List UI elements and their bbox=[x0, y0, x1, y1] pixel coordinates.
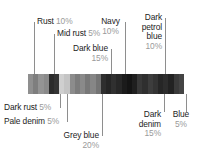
callout-navy: Navy 10% bbox=[98, 17, 123, 36]
callout-pale-denim-pct: 5% bbox=[47, 116, 59, 126]
callout-dark-denim-pct: 15% bbox=[130, 129, 161, 139]
leader-line-grey-blue bbox=[102, 94, 103, 136]
callout-blue-pct: 5% bbox=[169, 120, 193, 130]
callout-rust: Rust 10% bbox=[37, 17, 73, 27]
callout-mid-rust-name: Mid rust bbox=[57, 28, 86, 38]
callout-grey-blue: Grey blue 20% bbox=[49, 131, 99, 150]
callout-grey-blue-pct: 20% bbox=[49, 141, 99, 151]
callout-dark-blue-pct: 15% bbox=[58, 54, 108, 64]
figure-root: Rust 10% Mid rust 5% Dark blue 15% Navy … bbox=[0, 0, 203, 165]
leader-line-dark-blue bbox=[111, 49, 112, 74]
callout-dark-rust: Dark rust 5% bbox=[4, 103, 51, 113]
bar-segment-blue bbox=[179, 74, 184, 94]
leader-line-rust bbox=[34, 22, 35, 74]
leader-line-dark-denim bbox=[164, 94, 165, 112]
callout-dark-petrol-blue: Dark petrol blue 10% bbox=[133, 13, 162, 51]
leader-line-pale-denim bbox=[67, 94, 68, 122]
callout-mid-rust: Mid rust 5% bbox=[57, 29, 100, 39]
callout-dark-denim: Dark denim 15% bbox=[130, 110, 161, 139]
callout-dark-blue: Dark blue 15% bbox=[58, 44, 108, 63]
callout-navy-pct: 10% bbox=[98, 27, 123, 37]
callout-rust-pct: 10% bbox=[56, 16, 72, 26]
callout-dark-rust-pct: 5% bbox=[39, 102, 51, 112]
color-proportion-bar bbox=[28, 74, 184, 94]
callout-blue: Blue 5% bbox=[169, 110, 193, 129]
leader-line-dark-rust bbox=[60, 94, 61, 108]
callout-rust-name: Rust bbox=[37, 16, 54, 26]
callout-pale-denim-name: Pale denim bbox=[4, 116, 45, 126]
leader-line-dark-petrol-blue bbox=[165, 18, 166, 74]
leader-line-navy bbox=[125, 22, 126, 74]
leader-line-mid-rust bbox=[54, 34, 55, 74]
callout-dark-rust-name: Dark rust bbox=[4, 102, 37, 112]
callout-dark-petrol-blue-pct: 10% bbox=[133, 42, 162, 52]
callout-pale-denim: Pale denim 5% bbox=[4, 117, 59, 127]
